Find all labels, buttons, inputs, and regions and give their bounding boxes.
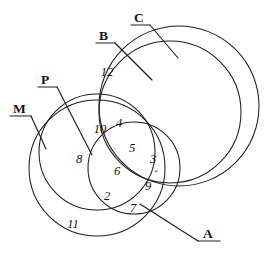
region-number-12: 12 <box>101 65 114 79</box>
set-label-b: B <box>99 28 108 43</box>
region-number-5: 5 <box>129 141 135 155</box>
region-number-10: 10 <box>94 122 107 136</box>
set-label-a: A <box>203 226 213 241</box>
region-number-11: 11 <box>67 217 79 231</box>
set-label-p: P <box>41 72 49 87</box>
point-mark-icon: * <box>154 168 158 176</box>
region-number-8: 8 <box>76 152 83 166</box>
region-number-4: 4 <box>116 116 122 130</box>
region-number-7: 7 <box>130 201 137 215</box>
set-label-m: M <box>13 101 26 116</box>
region-number-6: 6 <box>114 164 121 178</box>
mark-group: * <box>154 168 158 176</box>
region-number-2: 2 <box>104 189 110 203</box>
venn-diagram: C B P M A 12104853692711 * <box>0 0 264 262</box>
region-number-3: 3 <box>149 152 156 166</box>
set-label-c: C <box>134 10 144 25</box>
region-number-9: 9 <box>145 179 152 193</box>
venn-canvas: C B P M A 12104853692711 * <box>0 0 264 262</box>
